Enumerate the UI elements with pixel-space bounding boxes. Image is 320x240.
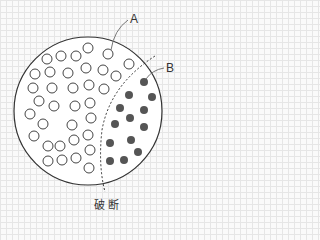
open-circle <box>25 109 35 119</box>
open-circle <box>81 63 91 73</box>
filled-dot <box>134 148 142 156</box>
open-circle <box>71 153 81 163</box>
open-circle <box>28 83 38 93</box>
open-circle <box>45 67 55 77</box>
open-circle <box>38 119 48 129</box>
open-circle <box>83 43 93 53</box>
open-circle <box>103 49 113 59</box>
open-circle <box>85 98 95 108</box>
open-circle <box>98 65 108 75</box>
open-circle <box>34 96 44 106</box>
open-circle <box>47 83 57 93</box>
filled-dot <box>148 93 156 101</box>
filled-dot <box>111 120 119 128</box>
filled-dot <box>125 91 133 99</box>
open-circle <box>85 145 95 155</box>
filled-dot <box>126 114 134 122</box>
filled-dot <box>106 139 114 147</box>
open-circle <box>30 69 40 79</box>
filled-dot <box>106 157 114 165</box>
open-circle <box>56 51 66 61</box>
filled-dot <box>120 156 128 164</box>
open-circle <box>42 54 52 64</box>
open-circle <box>29 131 39 141</box>
open-circle <box>63 68 73 78</box>
open-circle <box>86 113 96 123</box>
open-circle <box>71 51 81 61</box>
open-circle <box>124 59 134 69</box>
open-circle <box>84 163 94 173</box>
open-circle <box>57 155 67 165</box>
open-circle <box>70 101 80 111</box>
filled-dot <box>140 123 148 131</box>
open-circle <box>43 156 53 166</box>
fracture-caption: 破断 <box>94 196 122 212</box>
filled-dot <box>116 104 124 112</box>
open-circle <box>49 101 59 111</box>
filled-dot <box>140 106 148 114</box>
open-circle <box>69 135 79 145</box>
open-circle <box>55 141 65 151</box>
open-circle <box>43 141 53 151</box>
open-circle <box>67 120 77 130</box>
filled-dot <box>140 78 148 86</box>
fracture-diagram <box>0 0 178 222</box>
open-circle <box>83 130 93 140</box>
open-circle <box>99 84 109 94</box>
filled-dot <box>127 136 135 144</box>
open-circle <box>68 83 78 93</box>
open-circle <box>84 80 94 90</box>
label-b: B <box>166 61 174 75</box>
label-a: A <box>130 12 138 26</box>
open-circle <box>111 71 121 81</box>
